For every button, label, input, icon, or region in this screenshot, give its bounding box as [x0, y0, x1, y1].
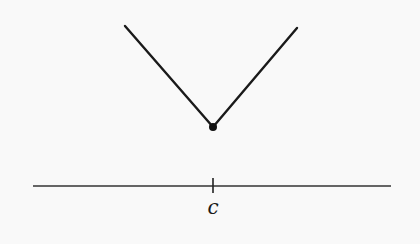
- axis-tick-label: c: [207, 195, 218, 219]
- v-graph-diagram: c: [0, 0, 420, 244]
- vertex-point: [209, 123, 217, 131]
